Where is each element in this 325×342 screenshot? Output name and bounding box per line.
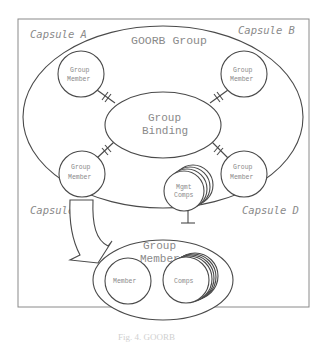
svg-text:Group: Group [233,67,253,74]
svg-text:Group: Group [70,67,90,74]
mgmt-comps-line2: Comps [174,192,194,199]
svg-text:Member: Member [67,76,91,83]
group-binding-line2: Binding [142,125,188,137]
svg-text:Comps: Comps [174,278,194,285]
group-member-top-right: Group Member [221,51,267,97]
detail-title-line1: Group [143,240,176,252]
group-member-bottom-left: Group Member [59,151,105,197]
svg-text:Member: Member [230,76,254,83]
ground-symbol-icon [181,211,195,223]
figure-caption: Fig. 4. GOORB [118,332,175,342]
group-binding-line1: Group [148,112,181,124]
capsule-a-label: Capsule A [30,28,87,40]
detail-member-circle: Member [105,258,151,304]
group-member-bottom-right: Group Member [221,151,267,197]
svg-text:Group: Group [71,164,91,171]
svg-text:Member: Member [68,174,92,181]
svg-text:Member: Member [113,278,137,285]
goorb-group-title: GOORB Group [131,34,207,47]
goorb-diagram: Capsule A Capsule B Capsule C Capsule D … [0,0,325,342]
svg-text:Member: Member [230,174,254,181]
capsule-d-label: Capsule D [242,204,299,216]
capsule-b-label: Capsule B [238,24,295,36]
group-member-top-left: Group Member [58,51,104,97]
zoom-arrow-icon [70,200,112,263]
svg-text:Group: Group [233,164,253,171]
mgmt-comps-line1: Mgmt [176,184,192,191]
